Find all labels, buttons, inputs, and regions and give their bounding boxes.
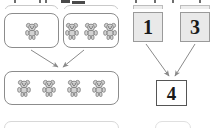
addend-1-value: 1 [143, 17, 153, 37]
addend-box-1[interactable] [4, 13, 59, 48]
addend-2-value: 3 [190, 17, 200, 37]
ghost-mark [72, 1, 85, 4]
arrow-down-right-bears [31, 50, 58, 67]
ghost-mark [172, 0, 174, 3]
teddy-bear-icon [103, 22, 117, 40]
ghost-mark [154, 0, 156, 3]
bear-row-addend-1 [25, 22, 39, 40]
ghost-counter-box [63, 5, 119, 9]
bear-row-sum [17, 79, 106, 97]
arrow-down-left-numerals [175, 44, 195, 76]
teddy-bear-icon [92, 79, 106, 97]
addend-tile-1[interactable]: 1 [133, 12, 163, 42]
sum-box-bears[interactable] [4, 71, 119, 105]
teddy-bear-icon [25, 22, 39, 40]
teddy-bear-icon [42, 79, 56, 97]
ghost-mark [45, 0, 47, 3]
teddy-bear-icon [17, 79, 31, 97]
ghost-mark [199, 0, 201, 3]
ghost-mark [14, 0, 16, 3]
ghost-numeral-tile [155, 121, 191, 128]
arrow-down-right-numerals [146, 44, 169, 76]
ghost-numeral-tile [180, 5, 210, 9]
sum-value: 4 [167, 84, 177, 103]
teddy-bear-icon [65, 22, 79, 40]
ghost-counter-box [4, 5, 59, 9]
clipped-next-row [0, 119, 213, 128]
addend-box-2[interactable] [63, 13, 119, 48]
ghost-counter-box [4, 121, 119, 128]
teddy-bear-icon [84, 22, 98, 40]
arrow-down-left-bears [63, 50, 84, 67]
sum-tile[interactable]: 4 [156, 80, 187, 106]
teddy-bear-icon [67, 79, 81, 97]
ghost-mark [135, 0, 137, 3]
addend-tile-2[interactable]: 3 [180, 12, 210, 42]
ghost-mark [39, 0, 41, 3]
ghost-mark [61, 0, 70, 3]
clipped-previous-row [0, 0, 213, 9]
worksheet-page: 1 3 4 [0, 0, 213, 128]
bear-row-addend-2 [65, 22, 117, 40]
ghost-numeral-tile [133, 5, 163, 9]
